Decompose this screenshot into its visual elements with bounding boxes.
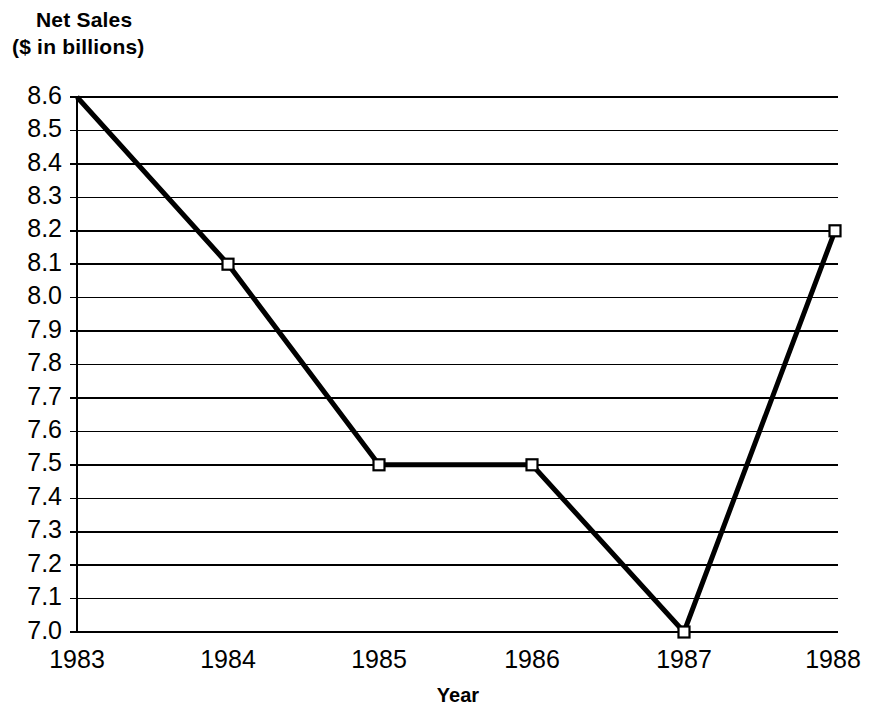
data-point-1986	[527, 459, 538, 470]
y-tick-label: 7.6	[27, 415, 62, 443]
y-tick-label: 7.4	[27, 482, 62, 510]
y-tick-label: 7.1	[27, 582, 62, 610]
x-tick-label: 1987	[656, 645, 712, 673]
y-tick-label: 8.3	[27, 181, 62, 209]
y-tick-label: 7.8	[27, 348, 62, 376]
x-tick-label: 1983	[49, 645, 105, 673]
chart-plot-area: 8.6 8.5 8.4 8.3 8.2 8.1 8.0 7.9 7.8 7.7 …	[0, 0, 876, 714]
x-axis-labels: 1983 1984 1985 1986 1987 1988	[49, 645, 861, 673]
y-tick-label: 7.2	[27, 549, 62, 577]
x-tick-label: 1984	[200, 645, 256, 673]
y-tick-label: 8.4	[27, 148, 62, 176]
data-point-1988	[830, 225, 841, 236]
y-tick-label: 8.5	[27, 114, 62, 142]
x-tick-label: 1985	[351, 645, 407, 673]
data-point-1984	[223, 259, 234, 270]
y-tick-label: 7.3	[27, 515, 62, 543]
y-tick-label: 8.1	[27, 248, 62, 276]
y-tick-label: 7.0	[27, 616, 62, 644]
y-tick-label: 8.6	[27, 81, 62, 109]
y-tick-label: 7.5	[27, 448, 62, 476]
x-tick-label: 1988	[805, 645, 861, 673]
y-tick-label: 7.7	[27, 382, 62, 410]
y-axis-labels: 8.6 8.5 8.4 8.3 8.2 8.1 8.0 7.9 7.8 7.7 …	[27, 81, 62, 644]
y-tick-label: 8.2	[27, 214, 62, 242]
data-point-1987	[679, 627, 690, 638]
x-tick-label: 1986	[504, 645, 560, 673]
x-axis-title: Year	[437, 684, 479, 706]
data-point-1985	[374, 459, 385, 470]
gridlines	[77, 97, 838, 632]
y-tick-label: 7.9	[27, 315, 62, 343]
y-tick-label: 8.0	[27, 281, 62, 309]
line-chart: Net Sales ($ in billions)	[0, 0, 876, 714]
